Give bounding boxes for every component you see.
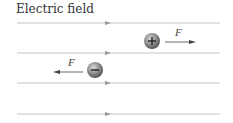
force-arrow-left-icon bbox=[53, 70, 83, 74]
field-line-2 bbox=[17, 51, 220, 55]
field-diagram bbox=[0, 0, 233, 123]
field-arrow-icon bbox=[105, 51, 111, 55]
negative-charge bbox=[87, 62, 103, 78]
force-label-positive: F bbox=[175, 26, 182, 38]
field-line-3 bbox=[17, 81, 220, 85]
field-line-1 bbox=[17, 21, 220, 25]
force-label-negative: F bbox=[68, 56, 75, 68]
field-arrow-icon bbox=[105, 112, 111, 116]
field-arrow-icon bbox=[105, 81, 111, 85]
field-line-4 bbox=[17, 112, 220, 116]
field-arrow-icon bbox=[105, 21, 111, 25]
force-arrow-right-icon bbox=[165, 40, 196, 44]
positive-charge bbox=[144, 33, 160, 49]
